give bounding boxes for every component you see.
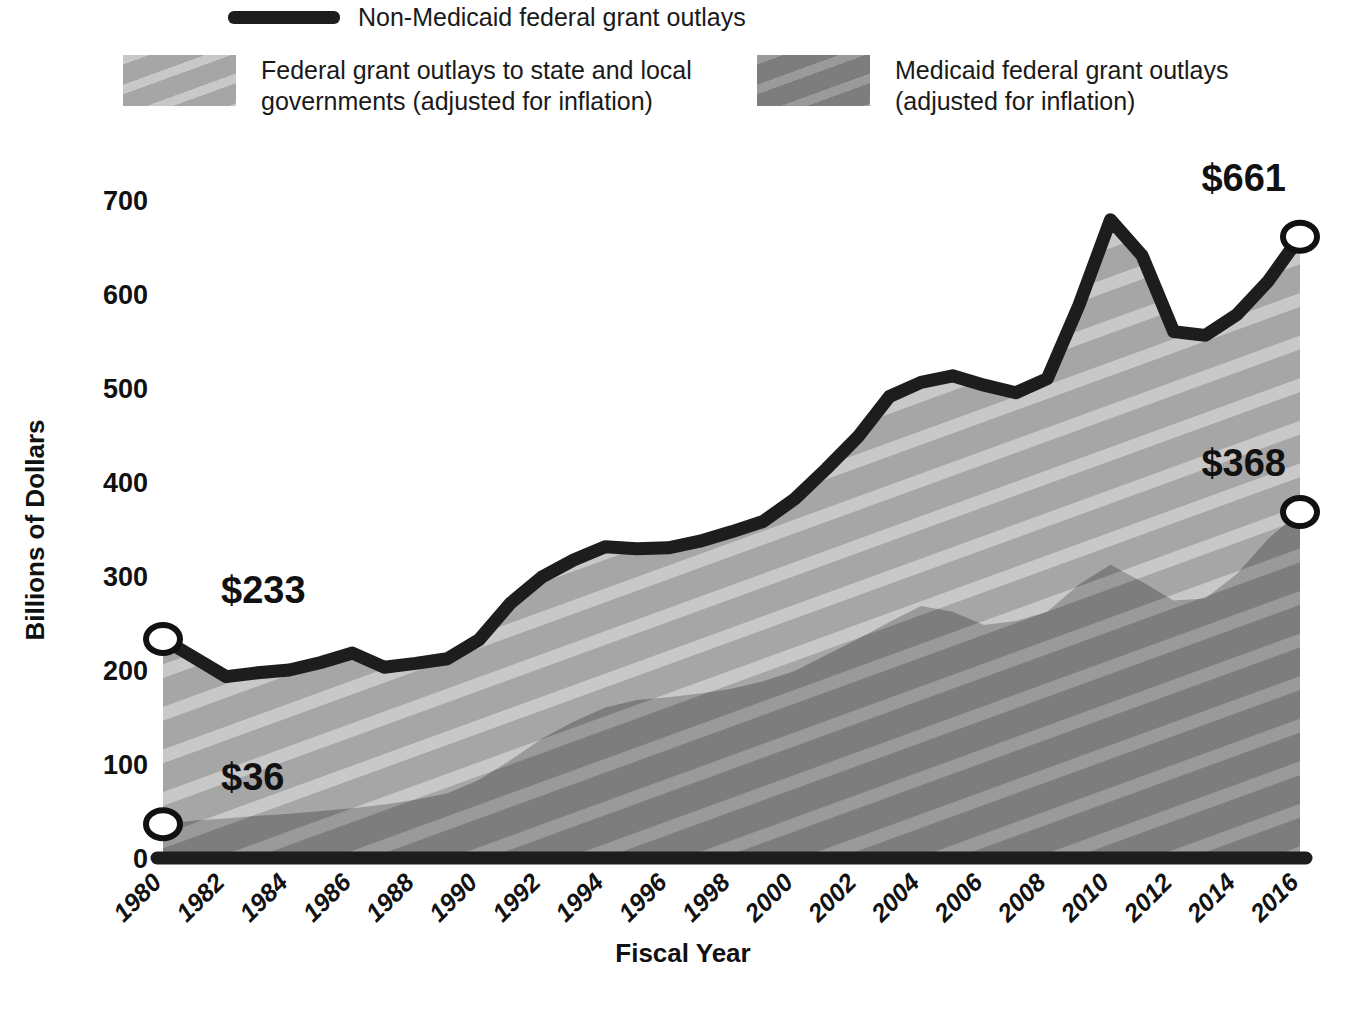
- endpoint-marker-0: [146, 625, 180, 653]
- y-tick-600: 600: [103, 280, 148, 310]
- y-tick-700: 700: [103, 186, 148, 216]
- y-tick-300: 300: [103, 562, 148, 592]
- x-tick-2010: 2010: [1054, 868, 1114, 928]
- y-tick-500: 500: [103, 374, 148, 404]
- x-tick-1996: 1996: [613, 867, 673, 927]
- x-tick-1998: 1998: [676, 868, 735, 927]
- y-axis-title: Billions of Dollars: [20, 419, 50, 640]
- x-tick-2014: 2014: [1181, 868, 1241, 928]
- endpoint-marker-3: [1283, 498, 1317, 526]
- x-axis-title: Fiscal Year: [615, 938, 750, 968]
- annotation-usd-661: $661: [1201, 157, 1286, 199]
- x-tick-1988: 1988: [360, 868, 419, 927]
- x-tick-2004: 2004: [865, 868, 925, 928]
- y-tick-100: 100: [103, 750, 148, 780]
- area-chart-svg: 0100200300400500600700 $233$36$661$368 1…: [0, 0, 1367, 1028]
- x-tick-2012: 2012: [1117, 868, 1177, 928]
- stacked-area-bands: [163, 220, 1300, 858]
- x-tick-1994: 1994: [550, 868, 609, 927]
- x-tick-2016: 2016: [1244, 867, 1305, 928]
- y-axis-tick-labels: 0100200300400500600700: [103, 186, 148, 874]
- x-tick-1980: 1980: [107, 868, 166, 927]
- x-tick-1992: 1992: [486, 868, 545, 927]
- chart-plot-area: 0100200300400500600700 $233$36$661$368 1…: [0, 0, 1367, 1028]
- x-tick-2006: 2006: [928, 867, 989, 928]
- annotation-usd-233: $233: [221, 569, 306, 611]
- y-tick-400: 400: [103, 468, 148, 498]
- endpoint-marker-1: [146, 810, 180, 838]
- x-tick-1982: 1982: [171, 868, 230, 927]
- x-tick-1984: 1984: [234, 868, 293, 927]
- x-tick-2002: 2002: [802, 868, 862, 928]
- x-tick-2000: 2000: [738, 868, 798, 928]
- x-tick-2008: 2008: [991, 868, 1051, 928]
- endpoint-marker-2: [1283, 223, 1317, 251]
- x-axis-tick-labels: 1980198219841986198819901992199419961998…: [107, 867, 1304, 928]
- x-tick-1990: 1990: [423, 868, 482, 927]
- annotation-usd-368: $368: [1201, 442, 1286, 484]
- x-tick-1986: 1986: [297, 867, 357, 927]
- annotation-usd-36: $36: [221, 756, 284, 798]
- y-tick-200: 200: [103, 656, 148, 686]
